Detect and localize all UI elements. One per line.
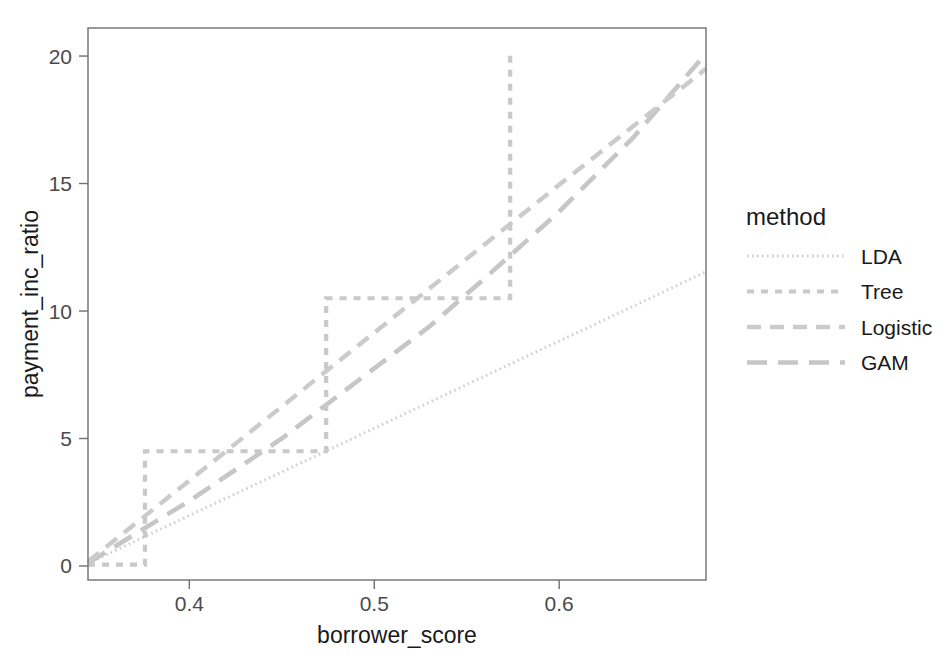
y-tick-label: 10 — [49, 300, 72, 323]
scatter-line-chart: 05101520 0.40.50.6 borrower_score paymen… — [0, 0, 951, 663]
legend: method LDATreeLogisticGAM — [746, 203, 932, 374]
x-axis: 0.40.50.6 — [175, 580, 574, 615]
y-tick-label: 5 — [60, 427, 72, 450]
y-tick-label: 15 — [49, 172, 72, 195]
legend-label-logistic[interactable]: Logistic — [861, 316, 932, 339]
y-axis: 05101520 — [49, 45, 88, 578]
y-tick-label: 0 — [60, 554, 72, 577]
legend-label-tree[interactable]: Tree — [861, 280, 903, 303]
y-tick-label: 20 — [49, 45, 72, 68]
x-tick-label: 0.4 — [175, 592, 205, 615]
legend-title: method — [746, 203, 826, 230]
x-tick-label: 0.6 — [545, 592, 574, 615]
legend-entries: LDATreeLogisticGAM — [747, 245, 932, 375]
plot-panel-background — [88, 28, 706, 580]
legend-label-gam[interactable]: GAM — [861, 351, 909, 374]
chart-figure: 05101520 0.40.50.6 borrower_score paymen… — [0, 0, 951, 663]
legend-label-lda[interactable]: LDA — [861, 245, 902, 268]
y-axis-title: payment_inc_ratio — [17, 210, 43, 398]
x-tick-label: 0.5 — [360, 592, 389, 615]
x-axis-title: borrower_score — [317, 622, 477, 648]
